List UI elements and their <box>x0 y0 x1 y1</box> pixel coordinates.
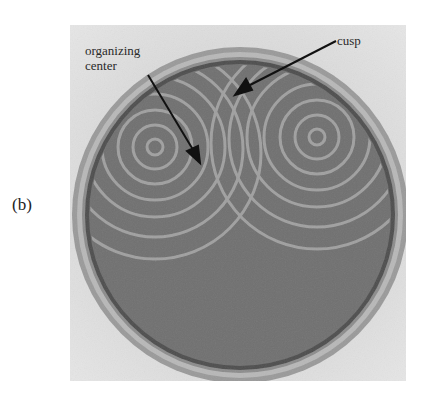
annotation-organizing-center: organizing center <box>85 43 140 73</box>
panel-label: (b) <box>12 195 32 215</box>
annotation-cusp: cusp <box>337 33 361 48</box>
petri-dish-photo <box>70 25 406 381</box>
